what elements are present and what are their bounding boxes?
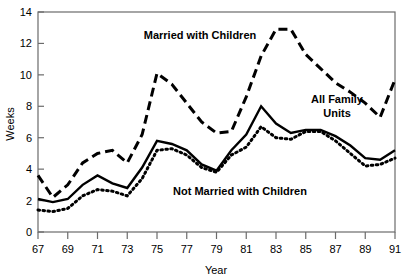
x-tick-label: 85 — [300, 243, 312, 255]
x-tick-label: 79 — [210, 243, 222, 255]
x-tick-label: 71 — [91, 243, 103, 255]
weeks-by-year-line-chart: 02468101214 67697173757779818385878991 W… — [0, 0, 408, 279]
y-tick-label: 12 — [20, 37, 32, 49]
x-tick-label: 75 — [151, 243, 163, 255]
series-annotation-not-married-with-children: Not Married with Children — [173, 185, 307, 197]
y-tick-label: 4 — [26, 163, 32, 175]
y-tick-label: 2 — [26, 195, 32, 207]
y-tick-label: 8 — [26, 100, 32, 112]
chart-background — [0, 0, 408, 279]
x-tick-label: 77 — [181, 243, 193, 255]
y-tick-label: 14 — [20, 6, 32, 18]
x-tick-label: 89 — [359, 243, 371, 255]
y-axis-title: Weeks — [4, 107, 16, 141]
x-tick-label: 69 — [62, 243, 74, 255]
x-axis-title: Year — [205, 264, 228, 276]
x-tick-label: 91 — [389, 243, 401, 255]
x-tick-label: 81 — [240, 243, 252, 255]
x-tick-label: 67 — [32, 243, 44, 255]
y-tick-label: 0 — [26, 226, 32, 238]
x-tick-label: 87 — [329, 243, 341, 255]
y-tick-label: 10 — [20, 69, 32, 81]
x-tick-label: 73 — [121, 243, 133, 255]
chart-container: 02468101214 67697173757779818385878991 W… — [0, 0, 408, 279]
x-tick-label: 83 — [270, 243, 282, 255]
series-annotation-married-with-children: Married with Children — [144, 29, 257, 41]
y-tick-label: 6 — [26, 132, 32, 144]
